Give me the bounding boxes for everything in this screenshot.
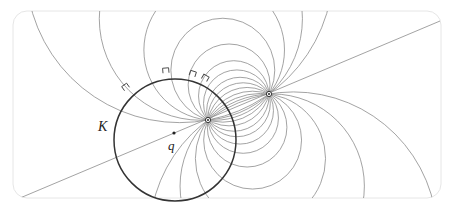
point-q bbox=[172, 131, 175, 134]
pole-inner-point bbox=[205, 117, 210, 122]
figure-frame bbox=[13, 11, 441, 198]
circle-label-k: K bbox=[97, 119, 108, 134]
pole-outer-point bbox=[266, 91, 271, 96]
point-label-q: q bbox=[168, 138, 175, 153]
inversion-diagram: K q bbox=[0, 0, 449, 213]
